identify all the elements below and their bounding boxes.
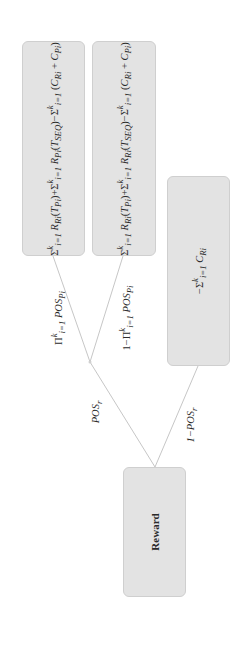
edge-label-partial: 1−Πki=1 POSPi	[117, 285, 135, 350]
edge-label-all-pass: Πki=1 POSPi	[49, 291, 67, 345]
edge-label-not-pos-r: 1−POSr	[185, 408, 199, 443]
leaf-all-pass-formula: Σki=1 RRi(TPi)+Σki=1 RPi(TSEQ)−Σki=1 (CR…	[45, 42, 63, 256]
leaf-fail-r-formula: −Σki=1 CRi	[190, 248, 208, 294]
leaf-all-pass: Σki=1 RRi(TPi)+Σki=1 RPi(TSEQ)−Σki=1 (CR…	[22, 41, 85, 256]
root-reward: Reward	[123, 467, 186, 597]
leaf-fail-r: −Σki=1 CRi	[167, 176, 230, 366]
leaf-partial-formula: Σki=1 RRi(TPi)+Σki=1 RRi(TSEQ)−Σki=1 (CR…	[115, 42, 133, 256]
edge-label-pos-r: POSr	[90, 401, 104, 424]
reward-label: Reward	[149, 513, 161, 550]
junction-node	[89, 361, 92, 364]
leaf-partial: Σki=1 RRi(TPi)+Σki=1 RRi(TSEQ)−Σki=1 (CR…	[92, 41, 156, 256]
